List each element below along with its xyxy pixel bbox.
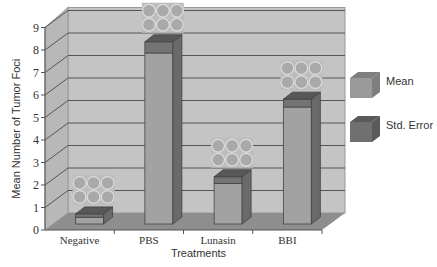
- y-tick-label: 9: [33, 21, 39, 35]
- legend: MeanStd. Error: [350, 72, 433, 142]
- x-tick-label: PBS: [139, 234, 159, 246]
- well: [101, 177, 114, 190]
- well: [171, 4, 184, 17]
- x-axis-label: Treatments: [171, 247, 227, 259]
- y-tick-label: 7: [33, 66, 39, 80]
- bar-std-error: [76, 214, 104, 217]
- chart-root: 0123456789Mean Number of Tumor FociNegat…: [0, 0, 437, 267]
- y-tick-label: 0: [33, 223, 39, 237]
- well: [281, 76, 294, 89]
- bar-group-bbi: [280, 60, 322, 224]
- well: [281, 62, 294, 75]
- well-plate-image: [73, 175, 115, 205]
- x-tick-label: Negative: [60, 234, 100, 246]
- well: [157, 4, 170, 17]
- well-plate-image: [142, 3, 184, 33]
- well-plate-image: [211, 138, 253, 168]
- well: [143, 4, 156, 17]
- bar-side: [173, 35, 182, 224]
- bar-mean: [76, 217, 104, 224]
- bar-std-error: [283, 99, 311, 107]
- legend-swatch-front: [350, 122, 372, 142]
- bar-side: [311, 92, 320, 224]
- bar-std-error: [214, 177, 242, 184]
- y-tick-label: 3: [33, 156, 39, 170]
- well: [73, 191, 86, 204]
- well: [101, 191, 114, 204]
- bar-chart: 0123456789Mean Number of Tumor FociNegat…: [0, 0, 437, 267]
- well: [295, 62, 308, 75]
- well: [73, 177, 86, 190]
- well-plate-image: [280, 60, 322, 90]
- y-tick-label: 8: [33, 43, 39, 57]
- well: [226, 139, 239, 152]
- well: [295, 76, 308, 89]
- well: [212, 153, 225, 166]
- y-tick-label: 1: [33, 201, 39, 215]
- well: [226, 153, 239, 166]
- well: [240, 139, 253, 152]
- bar-std-error: [145, 42, 173, 53]
- y-tick-label: 6: [33, 88, 39, 102]
- side-wall: [45, 8, 68, 231]
- well: [309, 76, 322, 89]
- x-tick-label: Lunasin: [200, 234, 236, 246]
- well: [157, 18, 170, 31]
- well: [171, 18, 184, 31]
- legend-label: Std. Error: [386, 119, 433, 131]
- bar-mean: [145, 53, 173, 224]
- well: [143, 18, 156, 31]
- legend-swatch-front: [350, 78, 372, 98]
- y-tick-label: 2: [33, 178, 39, 192]
- well: [240, 153, 253, 166]
- well: [212, 139, 225, 152]
- bar-side: [242, 170, 251, 224]
- well: [309, 62, 322, 75]
- x-tick-label: BBI: [278, 234, 297, 246]
- bar-group-lunasin: [211, 138, 253, 224]
- y-axis-label: Mean Number of Tumor Foci: [10, 59, 22, 199]
- bar-mean: [214, 184, 242, 225]
- well: [87, 177, 100, 190]
- well: [87, 191, 100, 204]
- y-tick-label: 4: [33, 133, 39, 147]
- bar-mean: [283, 107, 311, 224]
- legend-label: Mean: [386, 75, 414, 87]
- y-tick-label: 5: [33, 111, 39, 125]
- bar-group-negative: [73, 175, 115, 224]
